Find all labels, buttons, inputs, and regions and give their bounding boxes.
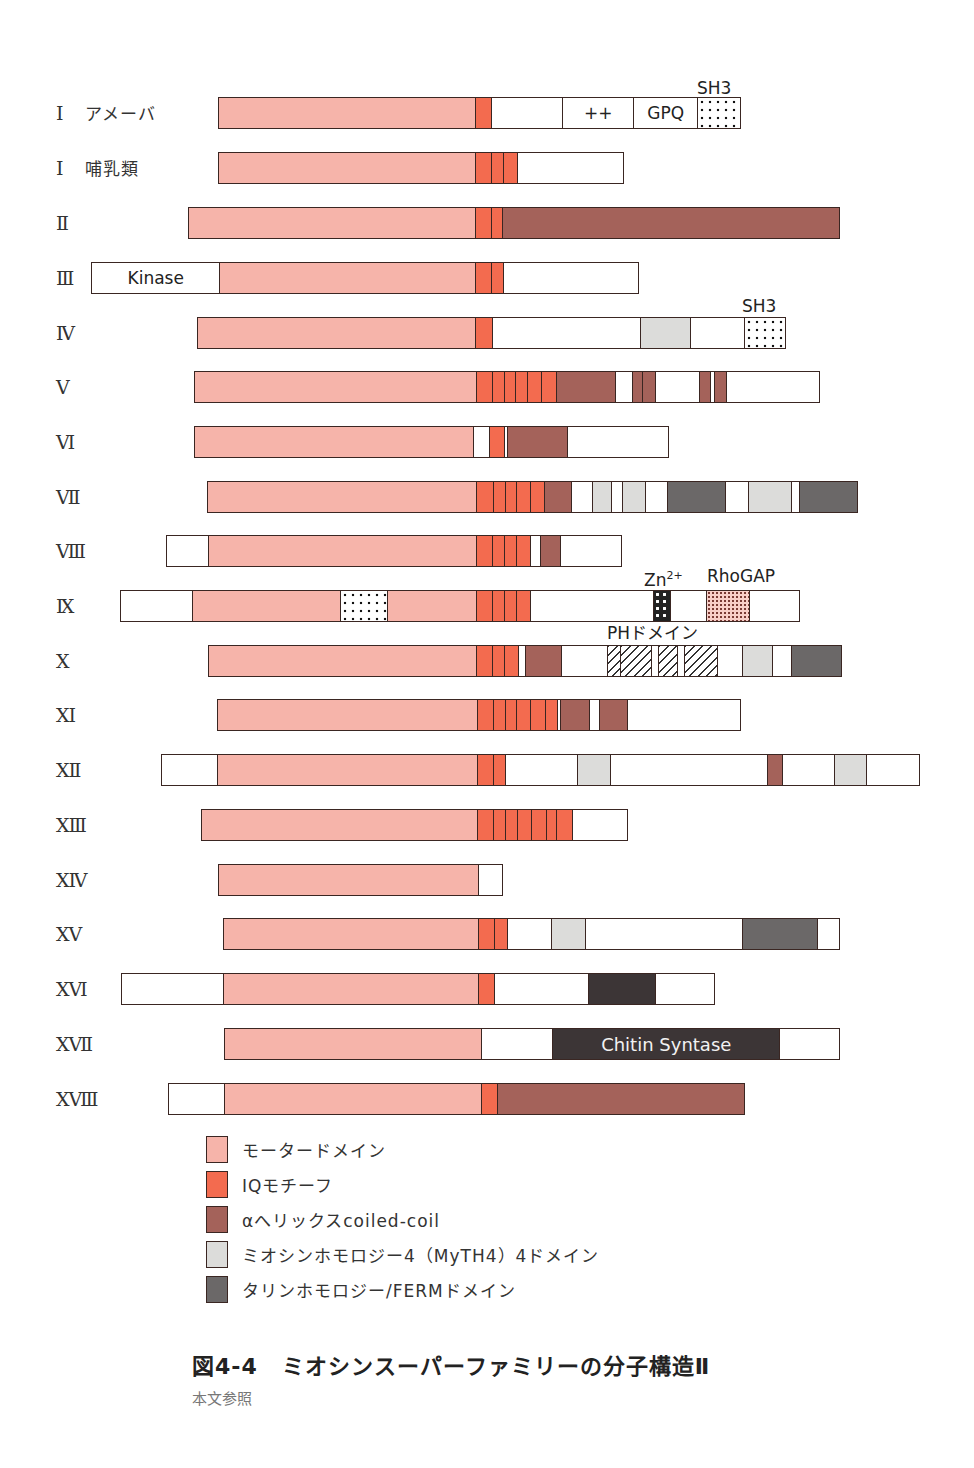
domain-empty [610,754,769,786]
domain-myth4 [577,754,612,786]
domain-empty [505,754,579,786]
domain-motor [224,1083,483,1115]
myosin-class-numeral: Ⅹ [56,650,69,672]
domain-motor [197,317,477,349]
myosin-class-numeral: Ⅳ [56,322,74,344]
domain-empty: GPQ [633,97,699,129]
domain-empty [567,426,669,458]
legend-label: タリンホモロジー/FERMドメイン [242,1277,516,1302]
domain-empty [655,973,715,1005]
domain-motor [218,97,477,129]
domain-iq [477,809,495,841]
domain-ferm [799,481,858,513]
domain-motor [223,973,480,1005]
row-label: Ⅷ [56,541,85,561]
domain-coil [507,426,569,458]
domain-iq [556,809,574,841]
row-label: Ⅶ [56,487,80,507]
row-label: ⅩⅢ [56,815,86,835]
domain-annotation: SH3 [697,79,731,97]
row-label: Ⅸ [56,596,73,616]
domain-iq [477,754,495,786]
myosin-bar: ++GPQ [218,97,739,129]
domain-annotation: RhoGAP [707,567,775,585]
row-label: ⅩⅤ [56,924,81,944]
legend-item: αへリックスcoiled-coil [206,1204,440,1234]
myosin-bar [120,590,798,622]
domain-motor [194,426,475,458]
domain-ph [658,645,679,677]
domain-empty [772,645,793,677]
figure-number: 図4-4 [192,1354,258,1379]
domain-motor [218,152,477,184]
domain-ferm [791,645,842,677]
myosin-bar [197,317,784,349]
domain-empty [481,1028,554,1060]
domain-iq [478,918,496,950]
domain-iq [477,699,495,731]
domain-coil [544,481,573,513]
myosin-class-numeral: Ⅵ [56,431,74,453]
domain-sh3 [697,97,741,129]
domain-ph [684,645,719,677]
domain-annotation: Zn2+ [644,567,683,589]
domain-empty [478,864,503,896]
domain-ph [620,645,653,677]
domain-annotation: PHドメイン [607,624,698,642]
domain-empty: Kinase [91,262,221,294]
legend-label: モータードメイン [242,1137,386,1162]
myosin-class-numeral: Ⅴ [56,376,69,398]
legend-swatch [206,1136,228,1163]
legend-item: モータードメイン [206,1134,386,1164]
myosin-bar: Chitin Syntase [224,1028,838,1060]
myosin-class-numeral: ⅩⅡ [56,759,80,781]
row-label: Ⅴ [56,377,69,397]
myosin-class-numeral: ⅩⅥ [56,978,87,1000]
myosin-bar [168,1083,743,1115]
domain-empty [168,1083,226,1115]
domain-empty [779,1028,840,1060]
myosin-organism-label: 哺乳類 [85,159,139,179]
domain-myth4 [640,317,692,349]
myosin-class-numeral: ⅩⅧ [56,1088,97,1110]
domain-ferm [742,918,819,950]
legend-label: αへリックスcoiled-coil [242,1207,440,1232]
domain-empty [690,317,746,349]
domain-iq [476,645,494,677]
domain-empty [782,754,836,786]
legend-swatch [206,1171,228,1198]
row-label: ⅩⅡ [56,760,80,780]
myosin-bar [194,371,818,403]
domain-empty [494,973,590,1005]
myosin-class-numeral: ⅩⅢ [56,814,86,836]
myosin-bar [223,918,838,950]
myosin-class-numeral: Ⅰ [56,102,63,124]
domain-motor [219,262,477,294]
domain-empty [507,918,553,950]
row-label: Ⅲ [56,268,73,288]
domain-empty [530,590,655,622]
figure-title: ミオシンスーパーファミリーの分子構造Ⅱ [282,1354,711,1379]
row-label: Ⅱ [56,213,68,233]
domain-motor [224,1028,483,1060]
myosin-bar [218,864,501,896]
domain-iq [475,152,493,184]
myosin-class-numeral: Ⅶ [56,486,80,508]
domain-empty [571,481,594,513]
domain-empty [503,262,639,294]
domain-empty [161,754,219,786]
domain-coil [525,645,563,677]
domain-motor [207,481,478,513]
domain-empty [491,97,564,129]
domain-ferm [667,481,727,513]
domain-empty [120,590,194,622]
myosin-class-numeral: ⅩⅣ [56,869,87,891]
domain-empty [572,809,628,841]
domain-myth4 [592,481,613,513]
legend-swatch [206,1276,228,1303]
myosin-bar [121,973,713,1005]
domain-iq [476,371,494,403]
domain-empty [121,973,225,1005]
domain-empty [749,590,800,622]
domain-empty [645,481,669,513]
